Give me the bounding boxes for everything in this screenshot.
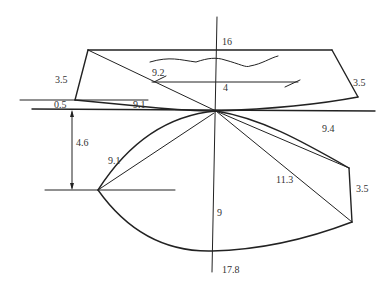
bottom-right-straight — [216, 111, 349, 168]
label-upper-right-diagonal: 9.4 — [322, 123, 335, 134]
top-left-side — [75, 50, 88, 100]
wave-line — [150, 56, 278, 67]
arrow-down-icon — [70, 183, 74, 190]
label-left-offset: 0.5 — [54, 99, 67, 110]
label-total-length: 17.8 — [222, 264, 240, 275]
bottom-lower-curve — [98, 190, 352, 251]
label-top-left-side: 3.5 — [55, 74, 68, 85]
bottom-left-straight — [98, 113, 214, 190]
center-line-tick — [285, 80, 300, 87]
top-diagonal — [88, 50, 216, 111]
label-top-diagonal: 9.2 — [152, 67, 165, 78]
label-top-right-side: 3.5 — [353, 77, 366, 88]
pattern-diagram: 16 4 9.2 3.5 3.5 0.5 9.1 4.6 9.1 9.4 11.… — [0, 0, 392, 291]
bottom-right-side — [349, 168, 352, 222]
center-axis — [212, 17, 217, 272]
label-bottom-left-segment: 9.1 — [133, 99, 146, 110]
label-center-line: 4 — [223, 82, 228, 93]
label-lower-left-diagonal: 9.1 — [108, 155, 121, 166]
label-lower-right-side: 3.5 — [356, 183, 369, 194]
top-bottom-curve-right — [216, 97, 358, 111]
top-right-side — [332, 50, 358, 97]
label-long-diagonal: 11.3 — [276, 174, 293, 185]
arrow-up-icon — [70, 110, 74, 117]
label-drop-height: 4.6 — [76, 137, 89, 148]
label-top-length: 16 — [222, 36, 232, 47]
label-center-vertical: 9 — [217, 207, 222, 218]
